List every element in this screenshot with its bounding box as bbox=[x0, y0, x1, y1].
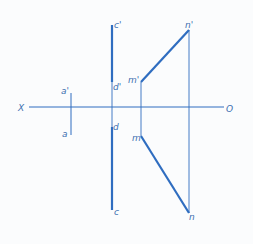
label-m: m bbox=[132, 133, 141, 143]
label-d-prime: d' bbox=[113, 82, 121, 92]
label-a: a bbox=[62, 129, 68, 139]
axis-label-o: O bbox=[226, 104, 233, 114]
label-m-prime: m' bbox=[128, 75, 139, 85]
mn-front-view-line bbox=[141, 30, 189, 82]
label-n: n bbox=[189, 212, 195, 222]
label-a-prime: a' bbox=[61, 86, 69, 96]
axis-label-x: X bbox=[17, 103, 25, 113]
mn-top-view-line bbox=[141, 136, 189, 213]
projection-diagram: X O a' a c' d' d c m' n' m n bbox=[0, 0, 253, 244]
label-n-prime: n' bbox=[185, 20, 193, 30]
label-c: c bbox=[114, 207, 119, 217]
label-c-prime: c' bbox=[114, 20, 121, 30]
label-d: d bbox=[113, 122, 119, 132]
